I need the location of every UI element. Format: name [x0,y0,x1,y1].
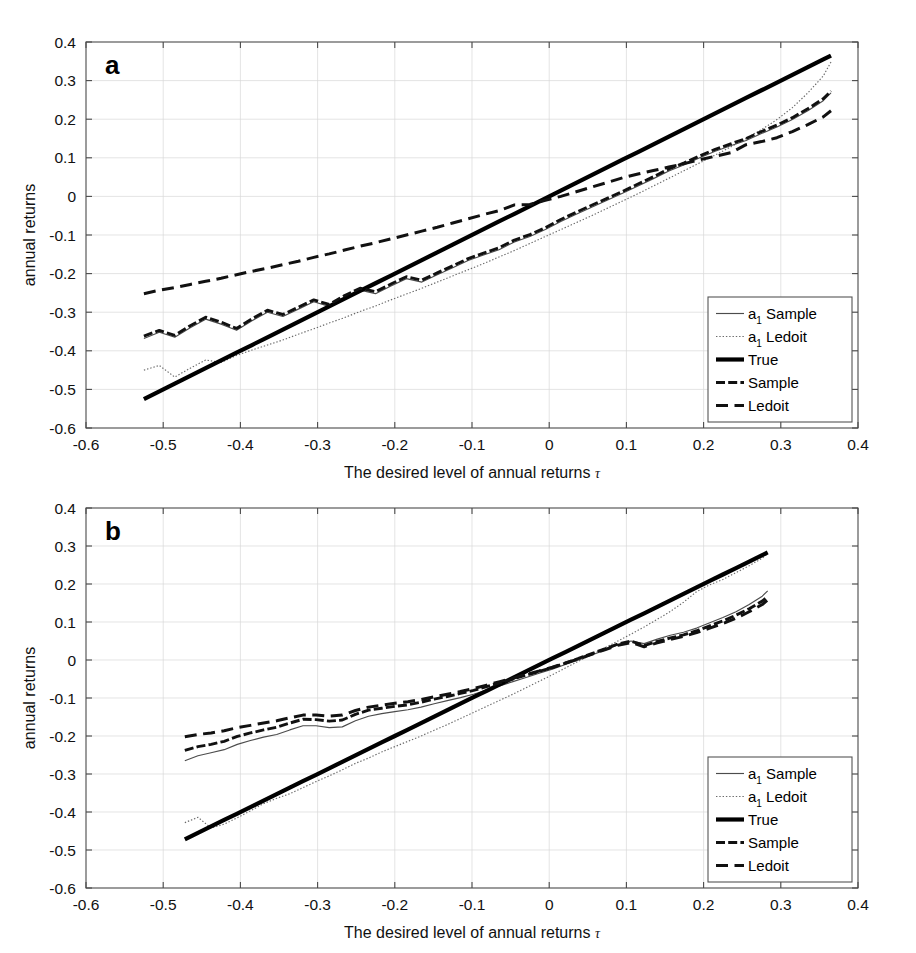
y-tick-label: -0.5 [49,381,76,398]
x-tick-label: 0.1 [616,896,638,913]
x-tick-label: -0.3 [304,436,331,453]
plot-svg-a: -0.6-0.5-0.4-0.3-0.2-0.100.10.20.30.4-0.… [0,0,916,492]
y-tick-label: -0.4 [49,342,76,359]
y-tick-label: 0.2 [54,111,76,128]
legend-label: True [748,351,778,368]
y-tick-label: -0.3 [49,766,76,783]
y-axis-title: annual returns [21,184,38,286]
x-tick-label: -0.3 [304,896,331,913]
x-tick-label: 0.1 [616,436,638,453]
figure-container: -0.6-0.5-0.4-0.3-0.2-0.100.10.20.30.4-0.… [0,0,916,953]
legend-label: Ledoit [748,397,790,414]
legend-label: Ledoit [748,857,790,874]
x-tick-label: 0.2 [693,896,715,913]
y-tick-label: 0.3 [54,538,76,555]
legend-label: Sample [748,834,799,851]
y-tick-label: -0.3 [49,304,76,321]
x-tick-label: -0.4 [227,436,254,453]
y-tick-label: -0.5 [49,842,76,859]
panel-letter-b: b [105,516,121,546]
legend-label: Sample [748,374,799,391]
x-tick-label: -0.6 [73,896,100,913]
y-tick-label: 0.3 [54,72,76,89]
y-tick-label: -0.1 [49,690,76,707]
x-tick-label: -0.5 [150,896,177,913]
x-tick-label: 0 [545,896,554,913]
legend: a1 Samplea1 LedoitTrueSampleLedoit [708,757,852,882]
x-tick-label: -0.4 [227,896,254,913]
y-axis-title: annual returns [21,647,38,749]
y-tick-label: 0 [67,188,76,205]
y-tick-label: -0.6 [49,880,76,897]
y-tick-label: -0.6 [49,420,76,437]
x-tick-label: 0.4 [847,896,869,913]
y-tick-label: -0.1 [49,227,76,244]
x-tick-label: 0 [545,436,554,453]
y-tick-label: -0.4 [49,804,76,821]
y-tick-label: -0.2 [49,728,76,745]
y-tick-label: 0.4 [54,34,76,51]
legend-label: True [748,811,778,828]
series-line-sample [185,597,768,751]
y-tick-label: 0.1 [54,149,76,166]
y-tick-label: 0.2 [54,576,76,593]
x-tick-label: 0.2 [693,436,715,453]
x-tick-label: -0.1 [459,896,486,913]
legend: a1 Samplea1 LedoitTrueSampleLedoit [708,297,852,422]
y-tick-label: -0.2 [49,265,76,282]
series-line-ledoit [185,600,768,737]
y-tick-label: 0.1 [54,614,76,631]
x-tick-label: 0.3 [770,436,792,453]
x-tick-label: 0.4 [847,436,869,453]
data-series-group [185,552,768,839]
chart-panel-b: -0.6-0.5-0.4-0.3-0.2-0.100.10.20.30.4-0.… [0,466,916,953]
series-line-a1_sample [185,591,768,761]
panel-letter-a: a [105,50,120,80]
x-tick-label: -0.1 [459,436,486,453]
x-tick-label: -0.2 [381,436,408,453]
x-tick-label: 0.3 [770,896,792,913]
x-axis-title: The desired level of annual returns τ [344,924,601,941]
series-line-true [185,552,768,839]
y-tick-label: 0.4 [54,500,76,517]
chart-panel-a: -0.6-0.5-0.4-0.3-0.2-0.100.10.20.30.4-0.… [0,0,916,492]
series-line-ledoit [144,111,831,294]
x-tick-label: -0.5 [150,436,177,453]
x-tick-label: -0.2 [381,896,408,913]
y-tick-label: 0 [67,652,76,669]
x-tick-label: -0.6 [73,436,100,453]
plot-svg-b: -0.6-0.5-0.4-0.3-0.2-0.100.10.20.30.4-0.… [0,466,916,953]
